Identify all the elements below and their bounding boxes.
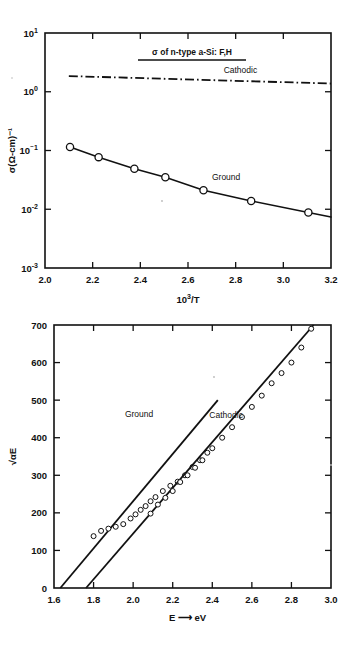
x-tick-label: 3.0 bbox=[324, 594, 337, 605]
y-tick-label: 700 bbox=[31, 320, 47, 331]
x-tick-label: 2.0 bbox=[38, 274, 51, 285]
data-point-ground bbox=[200, 187, 207, 194]
series-label-cathodic: Cathodic bbox=[209, 410, 243, 420]
data-point-ground bbox=[91, 534, 96, 539]
x-axis-label: 103/T bbox=[177, 293, 200, 305]
plot-frame bbox=[45, 33, 331, 268]
x-tick-label: 2.8 bbox=[229, 274, 242, 285]
data-point-ground bbox=[148, 499, 153, 504]
x-tick-label: 1.6 bbox=[47, 594, 60, 605]
series-label-ground: Ground bbox=[212, 172, 241, 182]
data-point-ground bbox=[133, 512, 138, 517]
y-tick-label: 0 bbox=[42, 583, 47, 594]
data-point-cathodic bbox=[230, 425, 235, 430]
data-point-ground bbox=[121, 522, 126, 527]
scan-speck bbox=[11, 77, 13, 79]
data-point-ground bbox=[113, 524, 118, 529]
series-label-cathodic: Cathodic bbox=[224, 65, 258, 75]
data-point-cathodic bbox=[178, 480, 183, 485]
x-tick-label: 2.2 bbox=[86, 274, 99, 285]
y-axis-label: σ(Ω-cm)⁻¹ bbox=[6, 128, 17, 174]
data-point-cathodic bbox=[185, 473, 190, 478]
x-tick-label: 2.4 bbox=[206, 594, 220, 605]
x-axis-label: E ⟶ eV bbox=[169, 612, 207, 623]
y-tick-label: 500 bbox=[31, 395, 47, 406]
data-point-cathodic bbox=[269, 381, 274, 386]
x-tick-label: 2.6 bbox=[181, 274, 194, 285]
y-tick-label: 300 bbox=[31, 470, 47, 481]
data-point-ground bbox=[162, 174, 169, 181]
data-point-cathodic bbox=[210, 446, 215, 451]
data-point-ground bbox=[160, 489, 165, 494]
data-point-ground bbox=[106, 526, 111, 531]
x-tick-label: 2.6 bbox=[245, 594, 258, 605]
data-point-ground bbox=[99, 528, 104, 533]
data-point-cathodic bbox=[170, 489, 175, 494]
y-tick-label: 100 bbox=[31, 545, 47, 556]
data-point-ground bbox=[248, 197, 255, 204]
fit-line-ground bbox=[60, 400, 218, 588]
y-tick-label: 101 bbox=[24, 27, 39, 39]
svg-text:√αE: √αE bbox=[7, 448, 18, 465]
x-tick-label: 2.8 bbox=[285, 594, 298, 605]
data-point-cathodic bbox=[309, 326, 314, 331]
y-tick-label: 400 bbox=[31, 432, 47, 443]
scan-speck bbox=[161, 200, 163, 202]
y-tick-label: 10⁻1 bbox=[20, 144, 39, 156]
data-point-ground bbox=[143, 504, 148, 509]
data-point-ground bbox=[128, 516, 133, 521]
chart-title: σ of n-type a-Si: F,H bbox=[152, 47, 232, 57]
scan-speck bbox=[213, 376, 215, 378]
data-point-ground bbox=[95, 154, 102, 161]
y-tick-label: 10-3 bbox=[21, 262, 38, 274]
y-tick-label: 100 bbox=[24, 85, 39, 97]
data-point-cathodic bbox=[279, 371, 284, 376]
data-point-cathodic bbox=[289, 360, 294, 365]
data-point-ground bbox=[131, 165, 138, 172]
series-label-ground: Ground bbox=[125, 409, 154, 419]
scan-speck bbox=[330, 464, 332, 466]
data-point-ground bbox=[138, 507, 143, 512]
figure-root: 2.02.22.42.62.83.03.210110010⁻110-210-3σ… bbox=[0, 0, 349, 649]
data-point-cathodic bbox=[193, 465, 198, 470]
conductivity-chart-canvas: 2.02.22.42.62.83.03.210110010⁻110-210-3σ… bbox=[0, 0, 349, 320]
y-axis-label: √αE bbox=[7, 448, 18, 465]
series-line-ground bbox=[70, 147, 331, 217]
x-tick-label: 2.4 bbox=[134, 274, 148, 285]
data-point-ground bbox=[305, 209, 312, 216]
y-tick-label: 200 bbox=[31, 507, 47, 518]
data-point-cathodic bbox=[200, 458, 205, 463]
data-point-cathodic bbox=[148, 511, 153, 516]
x-tick-label: 1.8 bbox=[87, 594, 100, 605]
x-tick-label: 3.2 bbox=[324, 274, 337, 285]
x-tick-label: 3.0 bbox=[277, 274, 290, 285]
x-tick-label: 2.2 bbox=[166, 594, 179, 605]
data-point-cathodic bbox=[163, 495, 168, 500]
data-point-cathodic bbox=[155, 502, 160, 507]
data-point-ground bbox=[153, 495, 158, 500]
data-point-cathodic bbox=[299, 345, 304, 350]
data-point-cathodic bbox=[259, 393, 264, 398]
data-point-cathodic bbox=[220, 435, 225, 440]
series-line-cathodic bbox=[69, 76, 331, 83]
conductivity-arrhenius-chart: 2.02.22.42.62.83.03.210110010⁻110-210-3σ… bbox=[0, 0, 349, 320]
tauc-absorption-chart: 1.61.82.02.22.42.62.83.00100200300400500… bbox=[0, 320, 349, 649]
x-tick-label: 2.0 bbox=[127, 594, 140, 605]
tauc-chart-canvas: 1.61.82.02.22.42.62.83.00100200300400500… bbox=[0, 320, 349, 649]
y-tick-label: 10-2 bbox=[21, 203, 38, 215]
y-tick-label: 600 bbox=[31, 357, 47, 368]
data-point-ground bbox=[66, 143, 73, 150]
fit-line-cathodic bbox=[86, 325, 314, 588]
data-point-cathodic bbox=[249, 404, 254, 409]
